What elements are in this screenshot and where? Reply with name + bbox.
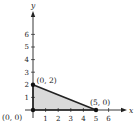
x-tick-label: 4 [81,115,86,123]
y-tick-label: 3 [25,69,29,77]
y-tick-label: 6 [25,31,30,39]
point-label-0-2: (0, 2) [37,76,57,85]
y-axis-label: y [30,1,36,10]
x-tick-label: 5 [94,115,98,123]
y-axis-arrow-icon [31,11,35,17]
x-axis-label: x [129,106,134,115]
graph: 1 2 3 4 5 6 1 2 3 4 5 6 x y (0, 0) (0, 2… [0,0,138,134]
vertex-origin [31,108,35,112]
point-label-origin: (0, 0) [2,113,22,122]
x-tick-label: 1 [43,115,47,123]
y-tick-label: 4 [25,56,30,64]
y-tick-label: 1 [25,94,29,102]
y-tick-label: 5 [25,43,29,51]
x-tick-label: 2 [56,115,60,123]
x-tick-label: 3 [69,115,73,123]
vertex-5-0 [94,108,98,112]
point-label-5-0: (5, 0) [90,98,110,107]
y-tick-label: 2 [25,81,29,89]
x-axis-arrow-icon [121,108,127,112]
x-tick-label: 6 [106,115,111,123]
vertex-0-2 [31,83,35,87]
